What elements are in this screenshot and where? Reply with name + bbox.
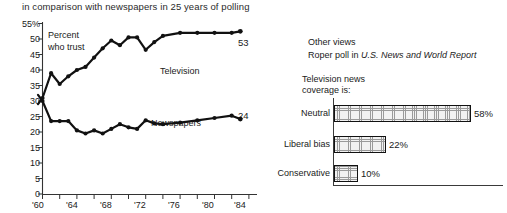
series-points-television — [40, 29, 242, 100]
bar-value-label-neutral: 58% — [474, 108, 493, 119]
bar-value-label-conservative: 10% — [361, 168, 380, 179]
bar-chart-source: Roper poll in U.S. News and World Report — [308, 49, 477, 61]
bar-category-label-conservative: Conservative — [277, 164, 334, 182]
bar-chart-baseline — [333, 185, 503, 186]
y-tick-marks — [38, 24, 43, 195]
bar-chart-source-prefix: Roper poll in — [308, 50, 361, 60]
bar-chart-subtitle-line1: Television news — [302, 74, 365, 86]
series-line-television — [38, 31, 240, 104]
bar-rect-neutral — [334, 105, 471, 122]
bar-chart-title: Other views — [308, 36, 356, 48]
bar-chart-source-publication: U.S. News and World Report — [361, 50, 477, 60]
page-headline: in comparison with newspapers in 25 year… — [22, 1, 250, 12]
chart-page: in comparison with newspapers in 25 year… — [0, 0, 507, 213]
bar-row-neutral: Neutral 58% — [334, 104, 493, 122]
bar-chart-panel: Other views Roper poll in U.S. News and … — [262, 0, 507, 213]
bar-value-label-liberal-bias: 22% — [389, 139, 408, 150]
series-line-newspapers — [38, 95, 240, 134]
line-chart-svg — [0, 14, 262, 213]
bar-rect-conservative — [334, 165, 358, 182]
bar-category-label-neutral: Neutral — [301, 104, 334, 122]
bar-chart-subtitle-line2: coverage is: — [302, 85, 351, 97]
line-chart-panel: 55% 50 45 40 35 30 25 20 15 10 5 0 '60 '… — [0, 14, 262, 213]
bar-row-conservative: Conservative 10% — [334, 164, 380, 182]
bar-row-liberal-bias: Liberal bias 22% — [334, 135, 408, 153]
bar-category-label-liberal-bias: Liberal bias — [284, 135, 334, 153]
bar-rect-liberal-bias — [334, 136, 386, 153]
